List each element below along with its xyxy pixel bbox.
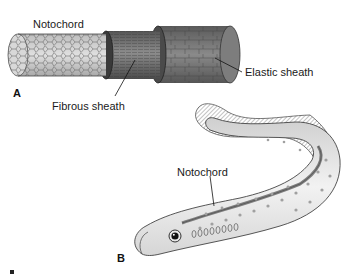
panel-label-a: A	[13, 88, 21, 99]
notochord-cylinder	[8, 26, 242, 96]
figure-illustration	[0, 0, 356, 274]
notochord-b-leader	[210, 176, 214, 206]
fish-illustration	[135, 104, 340, 256]
notochord-core	[8, 34, 106, 76]
cropped-glyph	[10, 270, 14, 274]
label-elastic-sheath: Elastic sheath	[245, 67, 313, 78]
panel-label-b: B	[117, 253, 125, 264]
label-notochord-b: Notochord	[177, 167, 228, 178]
fish-eye	[169, 230, 181, 242]
label-fibrous-sheath: Fibrous sheath	[52, 101, 125, 112]
elastic-sheath	[150, 26, 240, 83]
fish-body	[135, 118, 340, 256]
fibrous-sheath	[99, 31, 160, 79]
label-notochord-a: Notochord	[33, 19, 84, 30]
